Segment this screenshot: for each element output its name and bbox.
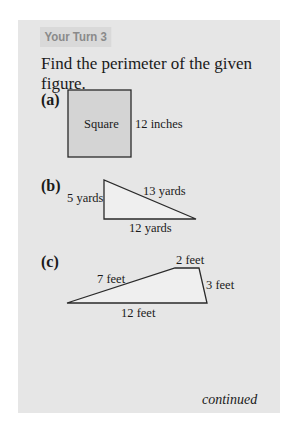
square-side-label: 12 inches	[135, 117, 183, 132]
square-label: Square	[84, 117, 119, 132]
triangle-hyp-label: 13 yards	[143, 184, 186, 199]
triangle-left-label: 5 yards	[67, 191, 103, 206]
trapezoid-right-label: 3 feet	[206, 278, 234, 293]
trapezoid-figure	[67, 268, 207, 303]
continued-label: continued	[202, 392, 257, 408]
trapezoid-slant-label: 7 feet	[97, 272, 125, 287]
figures	[0, 0, 296, 433]
trapezoid-top-label: 2 feet	[176, 253, 204, 268]
trapezoid-base-label: 12 feet	[121, 306, 155, 321]
problem-a-label: (a)	[41, 91, 60, 109]
triangle-base-label: 12 yards	[129, 221, 172, 236]
problem-b-label: (b)	[41, 177, 61, 195]
problem-c-label: (c)	[41, 253, 59, 271]
